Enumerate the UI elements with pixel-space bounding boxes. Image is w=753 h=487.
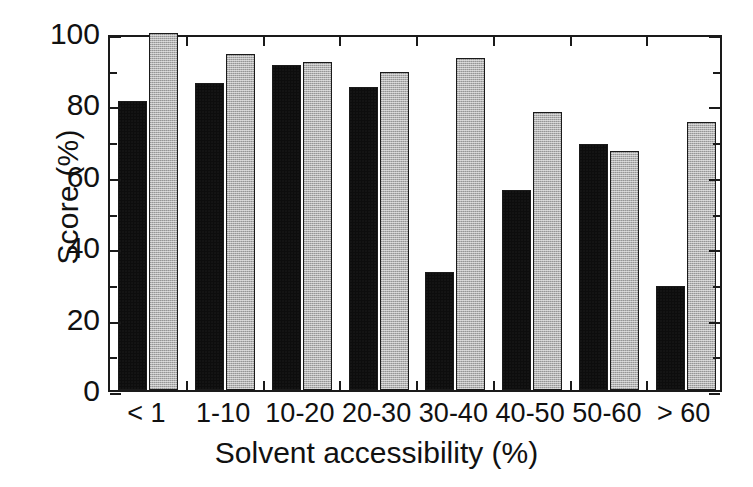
bar-gray-0 — [149, 33, 178, 390]
y-tick-minor-right — [713, 72, 720, 74]
y-tick-minor — [110, 215, 117, 217]
y-tick-major-right — [709, 179, 720, 181]
y-tick-major — [110, 36, 121, 38]
x-tick-top — [339, 37, 341, 46]
bar-chart-figure: Score (%) 020406080100 < 11-1010-2020-30… — [0, 0, 753, 487]
y-tick-minor-right — [713, 357, 720, 359]
y-tick-minor-right — [713, 143, 720, 145]
bar-gray-6 — [610, 151, 639, 390]
bar-black-6 — [579, 144, 608, 390]
x-tick-bottom — [263, 381, 265, 390]
x-tick-top — [186, 37, 188, 46]
y-tick-minor-right — [713, 215, 720, 217]
x-tick-bottom — [339, 381, 341, 390]
y-tick-major — [110, 107, 121, 109]
y-tick-label: 80 — [36, 90, 100, 120]
bar-black-3 — [349, 87, 378, 390]
y-tick-major-right — [709, 250, 720, 252]
y-tick-major — [110, 179, 121, 181]
bar-gray-1 — [226, 54, 255, 390]
bar-black-7 — [656, 286, 685, 390]
plot-area — [108, 35, 722, 392]
bar-black-4 — [425, 272, 454, 390]
y-tick-major — [110, 322, 121, 324]
bar-gray-4 — [456, 58, 485, 390]
x-tick-label: 20-30 — [342, 398, 411, 429]
y-tick-minor — [110, 72, 117, 74]
x-tick-top — [570, 37, 572, 46]
bar-gray-3 — [380, 72, 409, 390]
x-axis-title: Solvent accessibility (%) — [0, 436, 753, 470]
y-tick-major-right — [709, 322, 720, 324]
x-tick-top — [646, 37, 648, 46]
x-tick-top — [416, 37, 418, 46]
x-tick-bottom — [186, 381, 188, 390]
bar-black-5 — [502, 190, 531, 390]
y-tick-major — [110, 250, 121, 252]
y-tick-minor — [110, 143, 117, 145]
x-tick-top — [493, 37, 495, 46]
x-tick-label: 10-20 — [265, 398, 334, 429]
x-tick-label: 30-40 — [419, 398, 488, 429]
x-tick-bottom — [493, 381, 495, 390]
y-tick-label: 0 — [36, 376, 100, 406]
x-tick-label: > 60 — [657, 398, 710, 429]
x-tick-label: 40-50 — [496, 398, 565, 429]
bar-black-2 — [272, 65, 301, 390]
x-tick-bottom — [646, 381, 648, 390]
y-tick-major-right — [709, 36, 720, 38]
x-tick-label: < 1 — [127, 398, 165, 429]
bar-black-0 — [118, 101, 147, 390]
bar-black-1 — [195, 83, 224, 390]
y-tick-label: 100 — [36, 19, 100, 49]
y-tick-label: 20 — [36, 305, 100, 335]
bars-layer — [110, 37, 720, 390]
x-tick-label: 50-60 — [572, 398, 641, 429]
bar-gray-2 — [303, 62, 332, 390]
y-axis-tick-labels: 020406080100 — [28, 0, 100, 487]
y-tick-minor-right — [713, 286, 720, 288]
y-tick-major-right — [709, 393, 720, 395]
y-tick-label: 40 — [36, 233, 100, 263]
x-tick-bottom — [570, 381, 572, 390]
x-tick-bottom — [416, 381, 418, 390]
y-tick-major — [110, 393, 121, 395]
bar-gray-7 — [687, 122, 716, 390]
bar-gray-5 — [533, 112, 562, 390]
y-tick-minor — [110, 357, 117, 359]
x-tick-label: 1-10 — [196, 398, 250, 429]
y-tick-major-right — [709, 107, 720, 109]
y-tick-minor — [110, 286, 117, 288]
y-tick-label: 60 — [36, 162, 100, 192]
x-tick-top — [263, 37, 265, 46]
